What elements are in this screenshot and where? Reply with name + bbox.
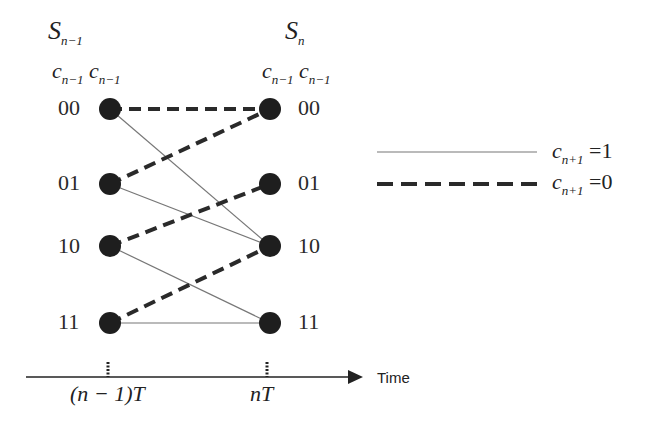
right-stage-title-sub: n: [298, 33, 305, 48]
left-bit1-sub: n−1: [62, 72, 84, 87]
legend-solid-sub: n+1: [562, 152, 584, 167]
node-right-00: [259, 98, 281, 120]
node-left-00: [99, 98, 121, 120]
left-bit1: c: [52, 58, 62, 83]
right-bit1-sub: n−1: [272, 72, 294, 87]
legend-dashed-sub: n+1: [562, 183, 584, 198]
left-bit2-sub: n−1: [99, 72, 121, 87]
dashed-transitions: [110, 109, 270, 323]
left-bit2: c: [89, 58, 99, 83]
tick-label-n-minus-1: (n − 1)T: [70, 381, 145, 407]
tick-label-n: nT: [250, 381, 273, 407]
node-right-11: [259, 312, 281, 334]
time-ticks: [108, 362, 267, 377]
right-bits-header: cn−1 cn−1: [262, 58, 331, 84]
legend-solid-label: cn+1 =1: [552, 138, 612, 164]
node-right-01: [259, 173, 281, 195]
node-right-10: [259, 235, 281, 257]
time-axis-arrowhead: [348, 370, 363, 384]
legend-solid-var: c: [552, 138, 562, 163]
edge-01-00: [110, 109, 270, 184]
legend-dashed-eq: =0: [589, 169, 612, 194]
right-state-01: 01: [298, 170, 320, 196]
right-state-11: 11: [298, 309, 319, 335]
left-stage-title: Sn−1: [48, 16, 83, 46]
left-state-10: 10: [58, 233, 80, 259]
edge-00-10: [110, 109, 270, 246]
legend-dashed-var: c: [552, 169, 562, 194]
right-stage-title-main: S: [285, 16, 298, 45]
right-state-10: 10: [298, 233, 320, 259]
left-state-00: 00: [58, 95, 80, 121]
right-bit2-sub: n−1: [309, 72, 331, 87]
tick-label-n-minus-1-paren: (n − 1): [70, 381, 133, 406]
time-axis-label: Time: [377, 369, 410, 386]
right-bit2: c: [299, 58, 309, 83]
legend-solid-eq: =1: [589, 138, 612, 163]
left-state-11: 11: [58, 309, 79, 335]
node-left-10: [99, 235, 121, 257]
tick-label-n-minus-1-T: T: [133, 381, 145, 406]
left-bits-header: cn−1 cn−1: [52, 58, 121, 84]
legend-dashed-label: cn+1 =0: [552, 169, 612, 195]
left-stage-title-sub: n−1: [61, 33, 83, 48]
node-left-01: [99, 173, 121, 195]
node-left-11: [99, 312, 121, 334]
right-state-00: 00: [298, 95, 320, 121]
right-bit1: c: [262, 58, 272, 83]
left-stage-title-main: S: [48, 16, 61, 45]
left-state-01: 01: [58, 170, 80, 196]
right-stage-title: Sn: [285, 16, 305, 46]
